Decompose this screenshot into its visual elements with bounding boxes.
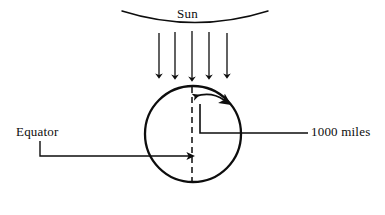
sun-ray-arrows xyxy=(159,31,227,79)
earth-circle xyxy=(145,86,241,182)
equator-leader-line xyxy=(40,141,189,156)
diagram-canvas xyxy=(0,0,385,215)
equator-label: Equator xyxy=(16,124,59,140)
sun-label: Sun xyxy=(177,6,198,22)
distance-leader-line xyxy=(200,104,308,133)
diagram-figure: Sun Equator 1000 miles xyxy=(0,0,385,215)
distance-label: 1000 miles xyxy=(311,124,370,140)
